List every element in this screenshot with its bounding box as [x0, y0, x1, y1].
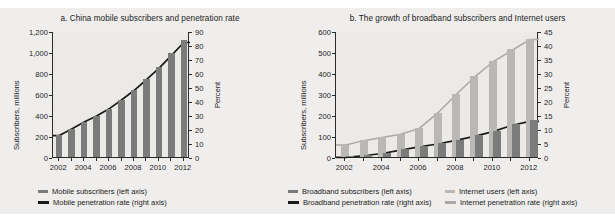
y-tick-mark [332, 116, 335, 117]
legend-label: Broadband subscribers (left axis) [302, 186, 412, 197]
x-tick-mark [158, 158, 159, 161]
x-tick-mark [510, 158, 511, 161]
x-tick-mark [83, 158, 84, 161]
y2-tick-mark [538, 130, 541, 131]
x-tick-label: 2010 [149, 163, 166, 172]
bar [56, 135, 63, 157]
y2-tick-label: 25 [544, 84, 552, 93]
y-tick-label: 600 [302, 28, 331, 37]
y2-tick-label: 80 [195, 42, 203, 51]
y2-tick-label: 10 [195, 140, 203, 149]
y-tick-mark [49, 53, 52, 54]
y-tick-label: 400 [302, 70, 331, 79]
x-tick-mark [418, 158, 419, 161]
chart-b-plot-area [335, 32, 538, 158]
legend-label: Internet penetration rate (right axis) [460, 197, 577, 208]
legend-swatch-bar-icon [445, 190, 455, 193]
y2-tick-mark [189, 46, 192, 47]
x-tick-label: 2008 [125, 163, 142, 172]
legend-label: Broadband penetration rate (right axis) [303, 197, 431, 208]
y-tick-mark [332, 32, 335, 33]
chart-a-legend: Mobile subscribers (left axis) Mobile pe… [0, 186, 300, 208]
y-tick-mark [49, 95, 52, 96]
chart-a-y2label: Percent [213, 82, 222, 108]
x-tick-mark [529, 158, 530, 161]
y2-tick-mark [189, 116, 192, 117]
y-tick-mark [49, 158, 52, 159]
y2-tick-label: 15 [544, 112, 552, 121]
bar [401, 149, 409, 157]
y2-tick-mark [538, 116, 541, 117]
x-tick-label: 2004 [373, 163, 390, 172]
y2-tick-mark [538, 88, 541, 89]
y-tick-label: 600 [19, 91, 48, 100]
y2-tick-mark [189, 144, 192, 145]
x-tick-mark [108, 158, 109, 161]
x-tick-mark [170, 158, 171, 161]
x-tick-label: 2010 [483, 163, 500, 172]
y-tick-label: 100 [302, 133, 331, 142]
y2-tick-label: 20 [544, 98, 552, 107]
y2-tick-mark [189, 60, 192, 61]
legend-item-mobile-subscribers: Mobile subscribers (left axis) [38, 186, 300, 197]
y2-tick-label: 70 [195, 56, 203, 65]
chart-a-title: a. China mobile subscribers and penetrat… [0, 14, 300, 23]
bar [131, 90, 138, 157]
legend-item-internet-penetration: Internet penetration rate (right axis) [445, 197, 577, 208]
bar [143, 79, 150, 157]
y-tick-mark [49, 116, 52, 117]
x-tick-mark [437, 158, 438, 161]
legend-swatch-bar-icon [38, 190, 48, 193]
bar [512, 124, 520, 157]
y-tick-label: 500 [302, 49, 331, 58]
x-tick-mark [473, 158, 474, 161]
y-tick-label: 400 [19, 112, 48, 121]
chart-panel-b: b. The growth of broadband subscribers a… [300, 8, 615, 214]
y2-tick-label: 35 [544, 56, 552, 65]
bar [383, 153, 391, 157]
y2-tick-mark [538, 158, 541, 159]
legend-label: Internet users (left axis) [459, 186, 537, 197]
bar [106, 109, 113, 157]
y2-tick-mark [189, 158, 192, 159]
x-tick-label: 2012 [520, 163, 537, 172]
x-tick-label: 2002 [50, 163, 67, 172]
x-tick-mark [96, 158, 97, 161]
y-tick-label: 0 [302, 154, 331, 163]
y-tick-mark [332, 137, 335, 138]
y2-tick-mark [538, 102, 541, 103]
y-tick-label: 1,200 [19, 28, 48, 37]
y2-tick-label: 90 [195, 28, 203, 37]
y2-tick-label: 0 [544, 154, 548, 163]
y-tick-label: 800 [19, 70, 48, 79]
x-tick-mark [121, 158, 122, 161]
bar [456, 140, 464, 157]
y2-tick-mark [538, 60, 541, 61]
bar [181, 40, 188, 157]
figure-root: a. China mobile subscribers and penetrat… [0, 0, 615, 221]
bar [118, 100, 125, 157]
y2-tick-label: 60 [195, 70, 203, 79]
x-tick-mark [58, 158, 59, 161]
legend-swatch-bar-icon [288, 190, 298, 193]
y-tick-label: 0 [19, 154, 48, 163]
x-tick-mark [145, 158, 146, 161]
x-tick-label: 2012 [174, 163, 191, 172]
chart-b-legend-col1: Broadband subscribers (left axis) Broadb… [288, 186, 431, 208]
bar [530, 120, 538, 157]
y-tick-mark [49, 74, 52, 75]
y-tick-mark [332, 53, 335, 54]
bar [420, 146, 428, 157]
y2-tick-label: 20 [195, 126, 203, 135]
y-tick-label: 200 [19, 133, 48, 142]
y2-tick-label: 50 [195, 84, 203, 93]
x-tick-mark [183, 158, 184, 161]
y-tick-label: 1,000 [19, 49, 48, 58]
bar [346, 156, 354, 157]
chart-b-title: b. The growth of broadband subscribers a… [300, 14, 615, 23]
y2-tick-label: 5 [544, 140, 548, 149]
y2-tick-label: 40 [544, 42, 552, 51]
y2-tick-label: 30 [544, 70, 552, 79]
y-tick-mark [332, 74, 335, 75]
x-tick-label: 2006 [100, 163, 117, 172]
